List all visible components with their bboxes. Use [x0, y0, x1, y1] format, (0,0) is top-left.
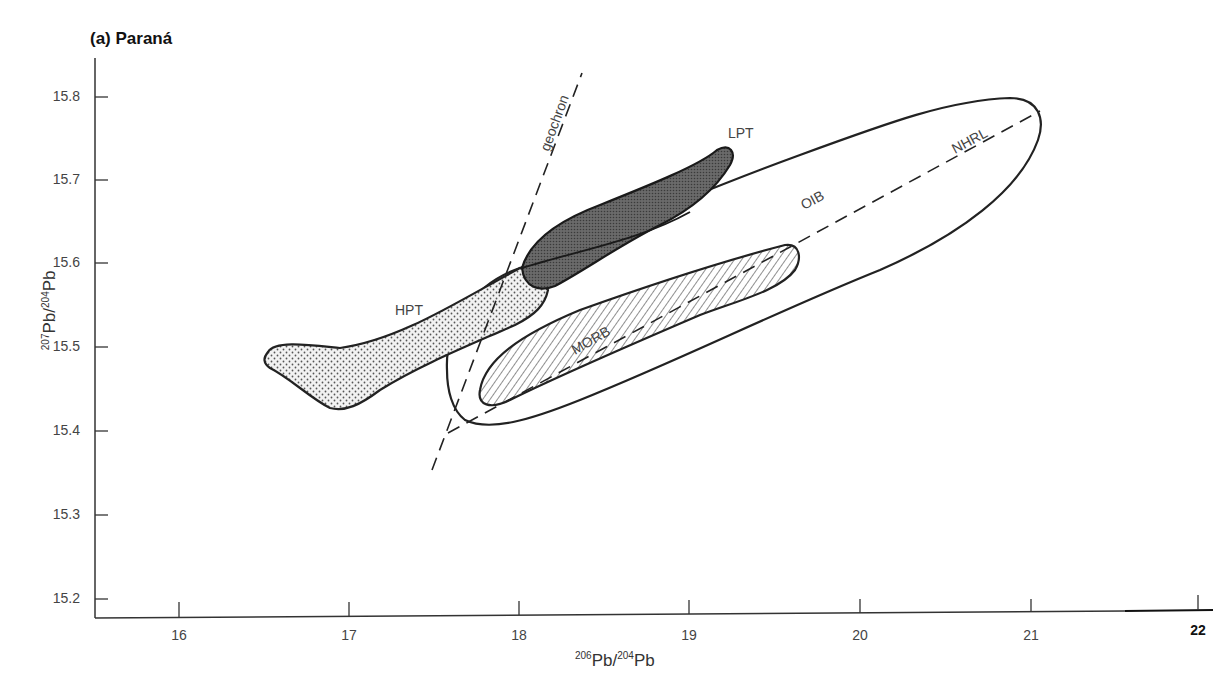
y-tick-15.7: 15.7 [22, 171, 80, 187]
y-axis [95, 58, 108, 618]
y-tick-15.8: 15.8 [22, 88, 80, 104]
x-tick-16: 16 [159, 627, 199, 643]
x-tick-21: 21 [1011, 627, 1051, 643]
oib-label: OIB [798, 187, 827, 212]
lpt-field [522, 148, 733, 289]
y-axis-title: 207Pb/204Pb [40, 240, 61, 380]
x-tick-22: 22 [1178, 622, 1218, 638]
x-tick-20: 20 [840, 627, 880, 643]
lpt-label: LPT [728, 125, 754, 141]
x-tick-19: 19 [669, 627, 709, 643]
y-tick-15.4: 15.4 [22, 422, 80, 438]
x-tick-18: 18 [499, 627, 539, 643]
x-axis-title: 206Pb/204Pb [575, 650, 655, 671]
y-tick-15.3: 15.3 [22, 506, 80, 522]
hpt-label: HPT [395, 302, 423, 318]
y-tick-15.2: 15.2 [22, 590, 80, 606]
nhrl-label: NHRL [949, 125, 990, 157]
pb-isotope-figure: (a) Paraná [0, 0, 1226, 688]
x-tick-17: 17 [329, 627, 369, 643]
plot-area: geochron LPT HPT OIB MORB NHRL [0, 0, 1226, 688]
geochron-label: geochron [537, 93, 572, 153]
x-axis [95, 595, 1213, 618]
